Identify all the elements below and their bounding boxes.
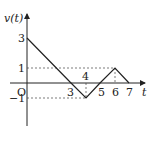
x-tick-4: 4 <box>82 70 89 83</box>
x-tick-7: 7 <box>126 86 133 99</box>
x-tick-5: 5 <box>98 86 105 99</box>
y-axis-label: v(t) <box>4 12 23 25</box>
x-tick-3: 3 <box>67 86 74 99</box>
x-tick-6: 6 <box>112 86 119 99</box>
velocity-chart: v(t) t O 3 1 −1 3 4 5 6 7 <box>0 0 154 142</box>
y-tick-1: 1 <box>18 62 25 75</box>
x-axis-label: t <box>142 86 147 99</box>
y-tick-3: 3 <box>18 32 25 45</box>
y-tick-minus-1: −1 <box>9 92 25 105</box>
